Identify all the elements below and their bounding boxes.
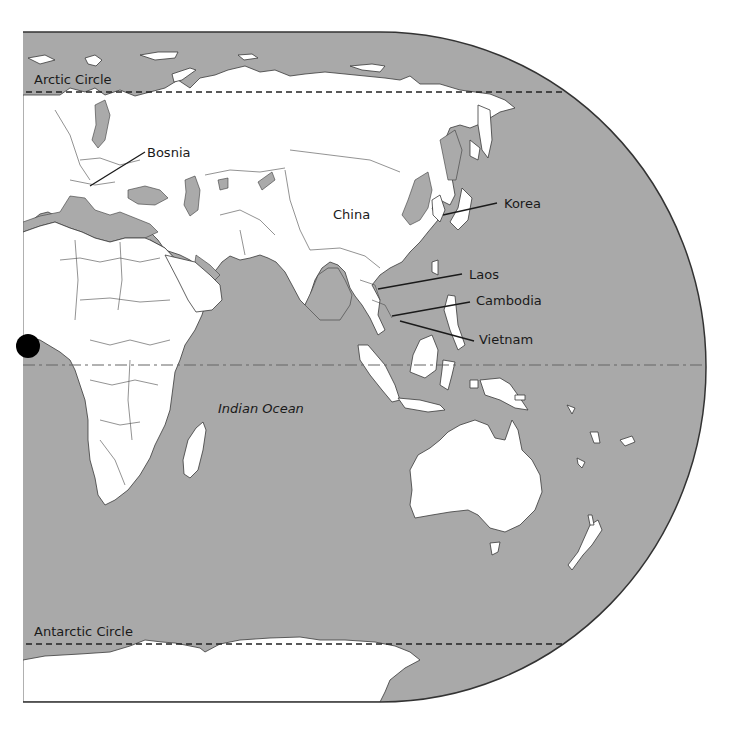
korea-label: Korea — [504, 196, 541, 211]
location-dot-marker[interactable] — [16, 334, 40, 358]
indian-ocean-label: Indian Ocean — [218, 401, 304, 416]
bosnia-label: Bosnia — [147, 145, 190, 160]
antarctic-circle-label: Antarctic Circle — [34, 624, 133, 639]
vietnam-label: Vietnam — [479, 332, 533, 347]
arctic-circle-label: Arctic Circle — [34, 72, 112, 87]
laos-label: Laos — [469, 267, 499, 282]
world-map: Arctic Circle Antarctic Circle Bosnia Ch… — [0, 0, 745, 732]
cambodia-label: Cambodia — [476, 293, 542, 308]
china-label: China — [333, 207, 370, 222]
